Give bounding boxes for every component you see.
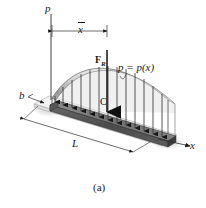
figure-container: p x FR p = p(x) b C L x (a)	[0, 0, 206, 208]
length-label: L	[72, 138, 78, 149]
width-leader-tail	[28, 94, 33, 97]
resultant-force-label: FR	[95, 55, 106, 68]
width-label: b	[19, 90, 25, 101]
centroid-label: C	[100, 97, 107, 107]
figure-caption: (a)	[93, 182, 105, 193]
x-axis-label: x	[190, 140, 195, 151]
pressure-axis-label: p	[45, 3, 51, 14]
centroid-distance-label: x	[78, 24, 83, 35]
resultant-force-subscript: R	[101, 60, 106, 68]
load-function-label: p = p(x)	[118, 62, 154, 73]
length-ext-right	[133, 142, 150, 152]
